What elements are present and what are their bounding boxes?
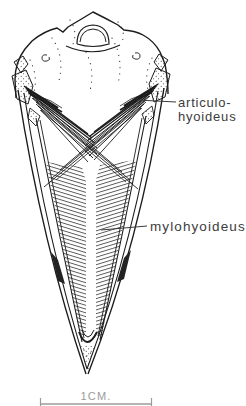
chin-tip xyxy=(81,346,95,372)
anatomical-illustration: articulo- hyoideus mylohyoideus 1CM. xyxy=(0,0,246,406)
scale-bar-label: 1CM. xyxy=(80,390,111,402)
nostril-marks xyxy=(42,53,140,61)
jaw-corner-left xyxy=(12,56,62,126)
illustration-canvas: articulo- hyoideus mylohyoideus 1CM. xyxy=(0,0,246,406)
label-mylohyoideus: mylohyoideus xyxy=(150,219,246,234)
tendon-attachments xyxy=(51,250,131,284)
labels: articulo- hyoideus mylohyoideus xyxy=(150,95,246,234)
label-articulo-hyoideus-line1: articulo- xyxy=(178,95,231,110)
label-articulo-hyoideus-line2: hyoideus xyxy=(178,109,236,124)
jaw-corner-right xyxy=(120,54,170,124)
scale-bar: 1CM. xyxy=(40,390,152,406)
mylohyoideus-muscle xyxy=(46,160,136,342)
